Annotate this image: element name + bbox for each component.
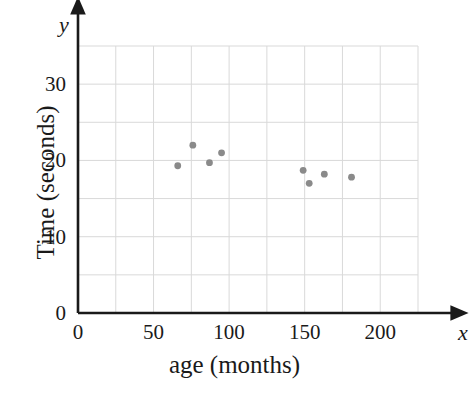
data-point bbox=[206, 159, 213, 166]
x-tick-label: 50 bbox=[143, 322, 164, 343]
gridlines bbox=[78, 46, 418, 313]
data-point bbox=[218, 149, 225, 156]
x-axis-title: age (months) bbox=[0, 352, 469, 377]
data-point bbox=[348, 174, 355, 181]
data-points bbox=[174, 142, 355, 187]
x-tick-label: 200 bbox=[364, 322, 396, 343]
data-point bbox=[321, 171, 328, 178]
scatter-plot-figure: 050100150200 0102030 x y age (months) Ti… bbox=[0, 0, 469, 397]
x-tick-label: 100 bbox=[213, 322, 245, 343]
y-axis-title: Time (seconds) bbox=[33, 53, 58, 313]
x-tick-label: 0 bbox=[73, 322, 84, 343]
x-tick-label: 150 bbox=[289, 322, 321, 343]
axes bbox=[78, 12, 453, 313]
data-point bbox=[174, 162, 181, 169]
data-point bbox=[300, 167, 307, 174]
data-point bbox=[306, 180, 313, 187]
x-axis-variable-label: x bbox=[458, 322, 468, 344]
data-point bbox=[189, 142, 196, 149]
y-axis-variable-label: y bbox=[59, 14, 69, 36]
